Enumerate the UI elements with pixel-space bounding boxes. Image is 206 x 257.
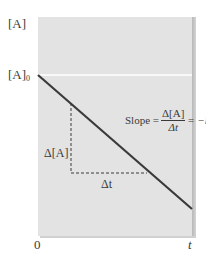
slope-equation: Slope = Δ[A] Δt = −k <box>125 108 206 133</box>
initial-concentration-label: [A]0 <box>8 68 30 83</box>
y-axis-label: [A] <box>8 17 26 30</box>
delta-t-label: Δt <box>101 178 112 190</box>
slope-fraction: Δ[A] Δt <box>161 108 185 133</box>
initial-concentration-subscript: 0 <box>26 74 30 83</box>
slope-suffix: = −k <box>187 115 206 126</box>
x-axis-label: t <box>188 238 192 251</box>
x-origin-label: 0 <box>34 238 41 251</box>
slope-prefix: Slope = <box>125 115 159 126</box>
initial-concentration-main: [A] <box>8 67 26 82</box>
delta-t-text: Δt <box>101 177 112 191</box>
slope-denominator: Δt <box>168 121 178 133</box>
delta-a-label: Δ[A] <box>44 147 68 159</box>
concentration-line <box>38 75 192 209</box>
slope-numerator: Δ[A] <box>161 108 185 121</box>
